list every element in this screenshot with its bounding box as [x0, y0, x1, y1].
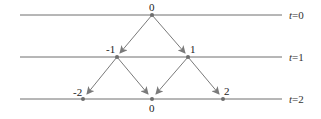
node-label-t0-0: 0 — [149, 1, 155, 13]
node-label-t1-plus1: 1 — [190, 43, 196, 55]
edge-plus1-to-0 — [156, 57, 188, 94]
edge-0-to-minus1 — [120, 15, 152, 53]
node-t1-plus1 — [186, 55, 190, 59]
node-t2-plus2 — [221, 97, 225, 101]
edge-plus1-to-plus2 — [188, 57, 219, 94]
edge-0-to-plus1 — [152, 15, 185, 53]
edge-minus1-to-0 — [117, 57, 148, 94]
time-label-t1: t=1 — [289, 51, 304, 63]
node-t0-0 — [150, 13, 154, 17]
node-t1-minus1 — [115, 55, 119, 59]
node-t2-0 — [150, 97, 154, 101]
node-label-t2-plus2: 2 — [224, 85, 230, 97]
edge-minus1-to-minus2 — [87, 57, 117, 94]
node-label-t2-minus2: -2 — [73, 86, 82, 98]
time-label-t0: t=0 — [289, 9, 304, 21]
node-label-t1-minus1: -1 — [106, 43, 115, 55]
time-label-t2: t=2 — [289, 93, 304, 105]
node-label-t2-0: 0 — [149, 102, 155, 114]
random-walk-tree-diagram: 0 -1 1 -2 0 2 t=0 t=1 t=2 — [0, 0, 321, 119]
